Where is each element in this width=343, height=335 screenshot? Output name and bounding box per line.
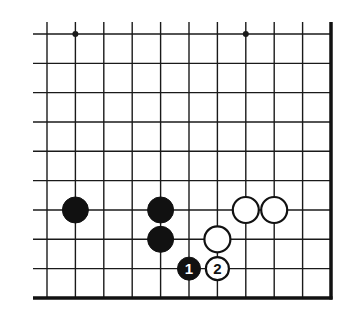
white-stone [261, 197, 287, 223]
white-stone [204, 226, 230, 252]
stone-circle [62, 197, 88, 223]
move-number-label: 2 [213, 260, 221, 277]
stone-circle [261, 197, 287, 223]
go-board: 12 [0, 0, 343, 335]
stone-circle [204, 226, 230, 252]
star-point [72, 31, 78, 37]
move-number-label: 1 [185, 260, 193, 277]
white-stone [233, 197, 259, 223]
black-stone [62, 197, 88, 223]
stone-circle [233, 197, 259, 223]
move-2-white-stone: 2 [206, 257, 229, 280]
black-stone [148, 197, 174, 223]
stone-circle [148, 226, 174, 252]
black-stone [148, 226, 174, 252]
grid-lines [33, 22, 331, 298]
move-1-black-stone: 1 [178, 257, 201, 280]
stone-circle [148, 197, 174, 223]
star-point [243, 31, 249, 37]
